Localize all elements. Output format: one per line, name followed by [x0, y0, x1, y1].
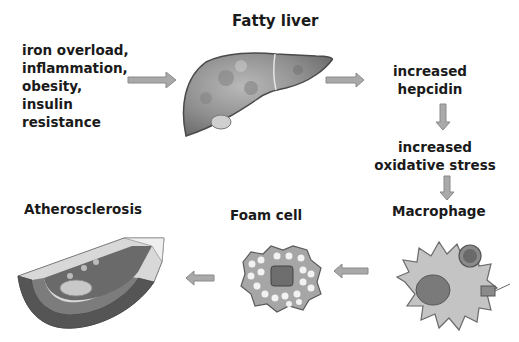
step-oxidative-stress: increased oxidative stress: [370, 138, 500, 174]
step-hepcidin-line: increased: [380, 62, 480, 80]
macrophage-illustration-icon: [395, 232, 515, 342]
arrow-right-icon: [326, 73, 366, 87]
cause-line: resistance: [22, 113, 129, 131]
liver-illustration-icon: [176, 48, 336, 143]
artery-illustration-icon: [14, 232, 164, 332]
causes-list: iron overload, inflammation, obesity, in…: [22, 41, 129, 131]
cause-line: insulin: [22, 95, 129, 113]
label-foam-cell: Foam cell: [230, 206, 302, 224]
step-oxidative-line: increased: [370, 138, 500, 156]
step-hepcidin-line: hepcidin: [380, 80, 480, 98]
arrow-down-icon: [440, 176, 454, 200]
cause-line: obesity,: [22, 77, 129, 95]
foam-cell-illustration-icon: [237, 244, 327, 314]
label-atherosclerosis: Atherosclerosis: [24, 200, 142, 218]
arrow-right-icon: [128, 72, 178, 88]
cause-line: inflammation,: [22, 59, 129, 77]
arrow-down-icon: [436, 104, 450, 130]
diagram-canvas: Fatty liver iron overload, inflammation,…: [0, 0, 519, 342]
arrow-left-icon: [186, 271, 214, 285]
title-fatty-liver: Fatty liver: [232, 12, 318, 30]
cause-line: iron overload,: [22, 41, 129, 59]
label-macrophage: Macrophage: [392, 202, 486, 220]
step-oxidative-line: oxidative stress: [370, 156, 500, 174]
step-hepcidin: increased hepcidin: [380, 62, 480, 98]
arrow-left-icon: [334, 264, 368, 278]
